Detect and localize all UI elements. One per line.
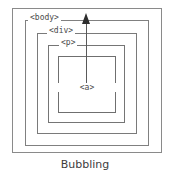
element-label-body: <body> [28, 13, 61, 22]
bubbling-diagram: <body> <div> <p> <a> Bubbling [0, 0, 170, 179]
element-label-a: <a> [58, 83, 116, 92]
element-label-div: <div> [47, 26, 75, 35]
element-label-p: <p> [59, 38, 77, 47]
diagram-caption: Bubbling [0, 158, 170, 172]
bubbling-arrow-head [82, 13, 90, 24]
bubbling-arrow-shaft [86, 22, 87, 85]
